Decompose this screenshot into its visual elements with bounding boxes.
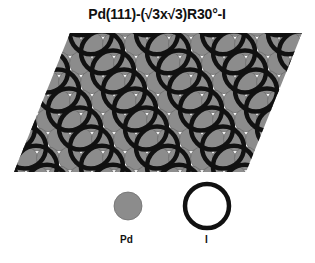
pd-atom <box>290 90 313 113</box>
pd-atom <box>312 90 315 113</box>
pd-atom <box>290 128 313 151</box>
pd-atom <box>125 0 148 17</box>
pd-atom <box>114 13 137 36</box>
pd-atom <box>4 13 27 36</box>
pd-atom <box>0 13 5 36</box>
pd-atom <box>0 0 16 17</box>
pd-atom <box>136 13 159 36</box>
iodine-adatom-ring <box>125 0 167 35</box>
pd-atom <box>290 166 313 189</box>
pd-atom <box>301 71 315 94</box>
pd-atom <box>169 0 192 17</box>
iodine-adatom-ring <box>0 108 35 150</box>
iodine-adatom-ring <box>0 184 13 226</box>
legend-i-label: I <box>205 234 208 245</box>
pd-atom <box>301 147 315 170</box>
iodine-adatom-ring <box>268 127 310 169</box>
pd-atom <box>312 13 315 36</box>
pd-atom <box>0 147 16 170</box>
pd-atom <box>59 185 82 208</box>
pd-atom <box>4 52 27 75</box>
pd-atom <box>180 13 203 36</box>
surface-lattice-diagram <box>0 0 314 263</box>
pd-atom <box>0 90 5 113</box>
pd-atom <box>0 71 16 94</box>
pd-atom <box>279 71 302 94</box>
pd-atom <box>70 13 93 36</box>
pd-atom <box>301 33 315 56</box>
pd-atom <box>15 0 38 17</box>
pd-atom <box>37 0 60 17</box>
pd-atom <box>92 13 115 36</box>
pd-atom <box>81 0 104 17</box>
legend-pd-label: Pd <box>120 234 133 245</box>
iodine-adatom-ring <box>290 165 314 207</box>
pd-atom <box>202 13 225 36</box>
pd-atom <box>0 128 5 151</box>
pd-atom <box>158 13 181 36</box>
iodine-adatom-ring <box>312 89 314 131</box>
pd-atom <box>257 147 280 170</box>
pd-atom <box>15 33 38 56</box>
pd-atom <box>224 13 247 36</box>
pd-atom <box>26 52 49 75</box>
pd-atom <box>103 0 126 17</box>
iodine-adatom-ring <box>0 69 13 111</box>
iodine-adatom-ring <box>0 89 24 131</box>
pd-atom <box>279 185 302 208</box>
iodine-adatom-ring <box>15 31 57 73</box>
pd-atom <box>246 13 269 36</box>
pd-atom <box>279 147 302 170</box>
pd-atom <box>257 0 280 17</box>
pd-atom <box>279 109 302 132</box>
pd-atom <box>235 0 258 17</box>
pd-atom <box>301 109 315 132</box>
pd-atom <box>81 185 104 208</box>
pd-atom <box>312 166 315 189</box>
pd-atom <box>246 166 269 189</box>
pd-atom <box>15 185 38 208</box>
iodine-adatom-ring <box>235 184 277 226</box>
iodine-adatom-ring <box>279 146 314 188</box>
iodine-adatom-ring <box>301 69 314 111</box>
pd-atom <box>301 0 315 17</box>
pd-atom <box>268 13 291 36</box>
pd-atom <box>235 185 258 208</box>
iodine-adatom-ring <box>37 184 79 226</box>
pd-atom <box>37 185 60 208</box>
pd-atom <box>301 185 315 208</box>
pd-atom <box>59 0 82 17</box>
pd-atom <box>147 185 170 208</box>
iodine-adatom-ring <box>191 0 233 35</box>
pd-atom <box>15 71 38 94</box>
pd-atom <box>290 13 313 36</box>
pd-atom <box>279 0 302 17</box>
legend <box>114 184 229 228</box>
pd-atom <box>147 0 170 17</box>
iodine-adatom-ring <box>0 165 2 207</box>
iodine-adatom-ring <box>301 184 314 226</box>
pd-atom <box>191 0 214 17</box>
pd-atom <box>0 33 16 56</box>
legend-iodine-ring-icon <box>185 184 229 228</box>
pd-atom <box>4 90 27 113</box>
legend-pd-atom-icon <box>114 192 142 220</box>
pd-atom <box>312 128 315 151</box>
pd-atom <box>312 52 315 75</box>
iodine-adatom-ring <box>59 0 101 35</box>
pd-atom <box>4 128 27 151</box>
pd-atom <box>48 13 71 36</box>
pd-atom <box>268 166 291 189</box>
pd-atom <box>37 33 60 56</box>
iodine-adatom-ring <box>290 50 314 92</box>
pd-atom <box>0 166 5 189</box>
iodine-adatom-ring <box>4 12 46 54</box>
pd-atom <box>26 13 49 36</box>
pd-atom <box>268 128 291 151</box>
pd-atom <box>257 185 280 208</box>
pd-atom <box>213 0 236 17</box>
pd-atom <box>0 185 16 208</box>
pd-atom <box>0 52 5 75</box>
pd-atom <box>0 109 16 132</box>
iodine-adatom-layer <box>0 0 314 226</box>
